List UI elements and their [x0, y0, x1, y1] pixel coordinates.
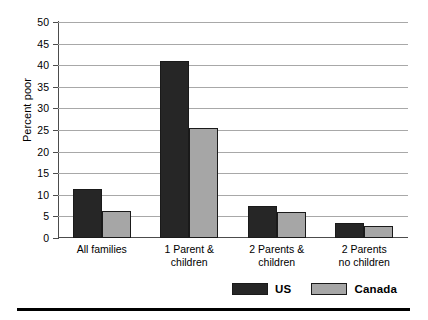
legend-item-us: US [232, 283, 291, 295]
bottom-divider-rule [17, 308, 410, 311]
y-axis-tick-label: 50 [27, 17, 49, 27]
bar-us-3 [335, 223, 364, 238]
bar-us-1 [160, 61, 189, 238]
legend-swatch-us-icon [232, 283, 268, 295]
x-axis-category-label: 2 Parents &children [227, 243, 327, 269]
y-axis-tick-label: 45 [27, 39, 49, 49]
x-axis-category-label: All families [52, 243, 152, 256]
x-axis-category-label: 2 Parentsno children [314, 243, 414, 269]
bar-chart-figure: Percent poor 05101520253035404550 All fa… [0, 0, 428, 320]
x-axis-category-label: 1 Parent &children [139, 243, 239, 269]
y-axis-tick-label: 40 [27, 60, 49, 70]
chart-legend: USCanada [232, 283, 397, 295]
legend-label: US [275, 283, 291, 295]
y-axis-tick-label: 25 [27, 125, 49, 135]
bar-us-2 [248, 206, 277, 238]
y-axis-tick [53, 238, 58, 239]
y-axis-tick-label: 15 [27, 168, 49, 178]
bar-canada-3 [364, 226, 393, 238]
y-axis-tick-label: 5 [27, 211, 49, 221]
plot-area [58, 22, 408, 238]
bar-canada-0 [102, 211, 131, 238]
bar-canada-2 [277, 212, 306, 238]
bar-us-0 [73, 189, 102, 238]
legend-swatch-canada-icon [311, 283, 347, 295]
y-axis-tick-label: 10 [27, 190, 49, 200]
y-axis-tick-label: 20 [27, 147, 49, 157]
bar-canada-1 [189, 128, 218, 238]
y-axis-tick-label: 0 [27, 233, 49, 243]
legend-label: Canada [354, 283, 397, 295]
y-axis-tick-label: 35 [27, 82, 49, 92]
legend-item-canada: Canada [311, 283, 397, 295]
y-axis-tick-label: 30 [27, 103, 49, 113]
bars-layer [58, 22, 408, 238]
